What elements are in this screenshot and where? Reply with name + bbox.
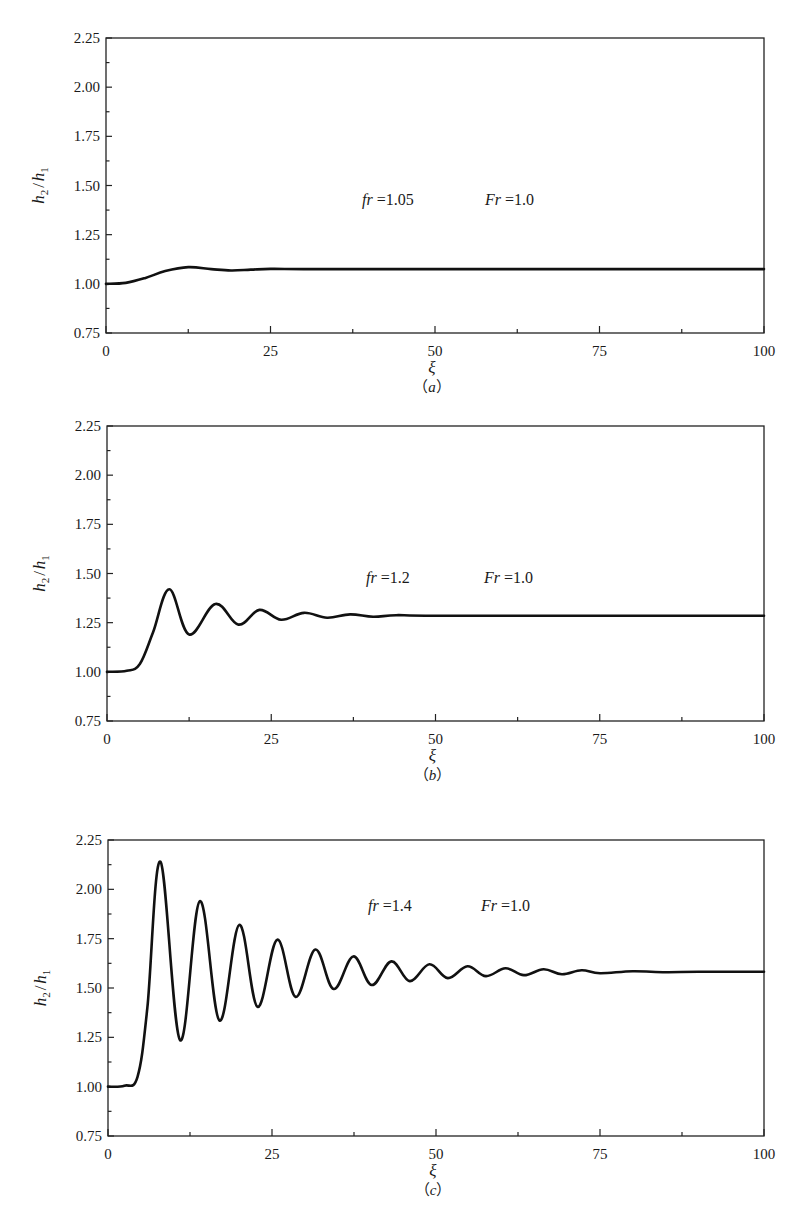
y-tick-label: 0.75 xyxy=(74,325,100,341)
chart-panel-a: 0.751.001.251.501.752.002.250255075100ξ（… xyxy=(29,30,775,395)
x-axis-label: ξ xyxy=(429,1161,437,1180)
panel-caption: （b） xyxy=(414,767,452,783)
y-tick-label: 1.75 xyxy=(75,516,101,532)
plot-frame xyxy=(106,38,764,333)
annotation-Fr: Fr =1.0 xyxy=(484,191,534,208)
y-tick-label: 2.00 xyxy=(74,79,100,95)
annotation-Fr: Fr =1.0 xyxy=(483,569,533,586)
y-tick-label: 1.50 xyxy=(75,566,101,582)
x-tick-label: 50 xyxy=(428,343,443,359)
plot-frame xyxy=(107,426,764,721)
y-tick-label: 1.25 xyxy=(76,1029,102,1045)
y-tick-label: 1.25 xyxy=(75,615,101,631)
y-tick-label: 2.00 xyxy=(76,881,102,897)
y-tick-label: 1.75 xyxy=(74,128,100,144)
x-tick-label: 25 xyxy=(263,343,278,359)
plot-frame xyxy=(108,840,764,1136)
x-tick-label: 100 xyxy=(753,343,776,359)
x-tick-label: 75 xyxy=(592,343,607,359)
figure-canvas: 0.751.001.251.501.752.002.250255075100ξ（… xyxy=(0,0,804,1232)
y-axis-label: h2/h1 xyxy=(30,555,51,592)
x-tick-label: 50 xyxy=(428,731,443,747)
y-axis-label: h2/h1 xyxy=(31,970,52,1007)
y-tick-label: 1.75 xyxy=(76,931,102,947)
y-tick-label: 1.00 xyxy=(75,664,101,680)
y-tick-label: 1.25 xyxy=(74,227,100,243)
x-tick-label: 25 xyxy=(265,1146,280,1162)
x-tick-label: 0 xyxy=(103,731,111,747)
annotation-fr: fr =1.05 xyxy=(362,191,414,209)
x-tick-label: 100 xyxy=(753,1146,776,1162)
y-tick-label: 0.75 xyxy=(76,1128,102,1144)
x-axis-label: ξ xyxy=(429,746,437,765)
y-tick-label: 2.25 xyxy=(75,418,101,434)
data-curve xyxy=(108,861,764,1086)
y-tick-label: 2.25 xyxy=(74,30,100,46)
x-axis-label: ξ xyxy=(428,358,436,377)
data-curve xyxy=(106,267,764,284)
annotation-fr: fr =1.2 xyxy=(366,569,410,587)
panel-caption: （c） xyxy=(415,1182,452,1198)
chart-panel-c: 0.751.001.251.501.752.002.250255075100ξ（… xyxy=(31,832,775,1198)
y-tick-label: 1.50 xyxy=(74,178,100,194)
annotation-Fr: Fr =1.0 xyxy=(480,897,530,914)
annotation-fr: fr =1.4 xyxy=(368,897,412,915)
chart-panel-b: 0.751.001.251.501.752.002.250255075100ξ（… xyxy=(30,418,775,783)
y-tick-label: 1.00 xyxy=(76,1079,102,1095)
y-axis-label: h2/h1 xyxy=(29,167,50,204)
x-tick-label: 50 xyxy=(429,1146,444,1162)
panel-caption: （a） xyxy=(413,379,451,395)
x-tick-label: 25 xyxy=(264,731,279,747)
y-tick-label: 2.00 xyxy=(75,467,101,483)
x-tick-label: 100 xyxy=(753,731,776,747)
x-tick-label: 75 xyxy=(592,731,607,747)
x-tick-label: 0 xyxy=(102,343,110,359)
data-curve xyxy=(107,589,764,672)
y-tick-label: 1.00 xyxy=(74,276,100,292)
y-tick-label: 1.50 xyxy=(76,980,102,996)
x-tick-label: 75 xyxy=(593,1146,608,1162)
x-tick-label: 0 xyxy=(104,1146,112,1162)
y-tick-label: 2.25 xyxy=(76,832,102,848)
y-tick-label: 0.75 xyxy=(75,713,101,729)
